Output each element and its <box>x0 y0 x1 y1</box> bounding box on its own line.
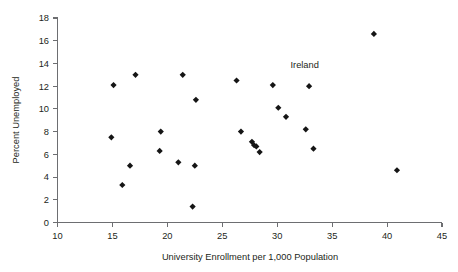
y-tick-label: 16 <box>39 36 49 46</box>
y-tick-label: 18 <box>39 13 49 23</box>
data-points <box>108 31 400 210</box>
data-point-marker <box>257 149 263 155</box>
y-tick-label: 6 <box>44 150 49 160</box>
data-point-marker <box>270 82 276 88</box>
annotation-label-ireland: Ireland <box>290 60 318 70</box>
data-point-marker <box>233 77 239 83</box>
x-tick-label: 35 <box>327 231 337 241</box>
x-tick-label: 45 <box>437 231 447 241</box>
scatter-plot-figure: 024681012141618 Percent Unemployed 10152… <box>0 0 458 272</box>
data-point-marker <box>371 31 377 37</box>
data-point-marker <box>108 134 114 140</box>
y-tick-label: 14 <box>39 59 49 69</box>
data-point-marker <box>394 167 400 173</box>
data-point-marker <box>132 72 138 78</box>
y-tick-label: 10 <box>39 104 49 114</box>
x-tick-label: 20 <box>162 231 172 241</box>
y-axis-title: Percent Unemployed <box>11 77 21 164</box>
y-axis: 024681012141618 Percent Unemployed <box>11 13 58 228</box>
y-tick-label: 12 <box>39 82 49 92</box>
x-tick-label: 40 <box>382 231 392 241</box>
chart-annotations: Ireland <box>290 60 318 70</box>
data-point-marker <box>192 163 198 169</box>
y-tick-label: 0 <box>44 218 49 228</box>
data-point-marker <box>110 82 116 88</box>
x-tick-label: 10 <box>52 231 62 241</box>
data-point-marker <box>157 148 163 154</box>
data-point-marker <box>119 182 125 188</box>
x-axis-ticks: 1015202530354045 <box>52 223 447 242</box>
data-point-marker <box>127 163 133 169</box>
x-axis: 1015202530354045 University Enrollment p… <box>52 223 447 263</box>
data-point-marker <box>306 83 312 89</box>
data-point-marker <box>180 72 186 78</box>
x-tick-label: 15 <box>107 231 117 241</box>
y-tick-label: 8 <box>44 127 49 137</box>
data-point-marker <box>275 105 281 111</box>
data-point-marker <box>190 203 196 209</box>
data-point-marker <box>175 159 181 165</box>
data-point-marker <box>158 129 164 135</box>
chart-canvas: 024681012141618 Percent Unemployed 10152… <box>0 0 458 272</box>
data-point-marker <box>238 129 244 135</box>
data-point-marker <box>283 114 289 120</box>
data-point-marker <box>310 146 316 152</box>
y-axis-ticks: 024681012141618 <box>39 13 58 228</box>
x-tick-label: 30 <box>272 231 282 241</box>
y-tick-label: 4 <box>44 172 49 182</box>
x-tick-label: 25 <box>217 231 227 241</box>
data-point-marker <box>193 97 199 103</box>
data-point-marker <box>303 126 309 132</box>
y-tick-label: 2 <box>44 195 49 205</box>
x-axis-title: University Enrollment per 1,000 Populati… <box>162 252 338 262</box>
